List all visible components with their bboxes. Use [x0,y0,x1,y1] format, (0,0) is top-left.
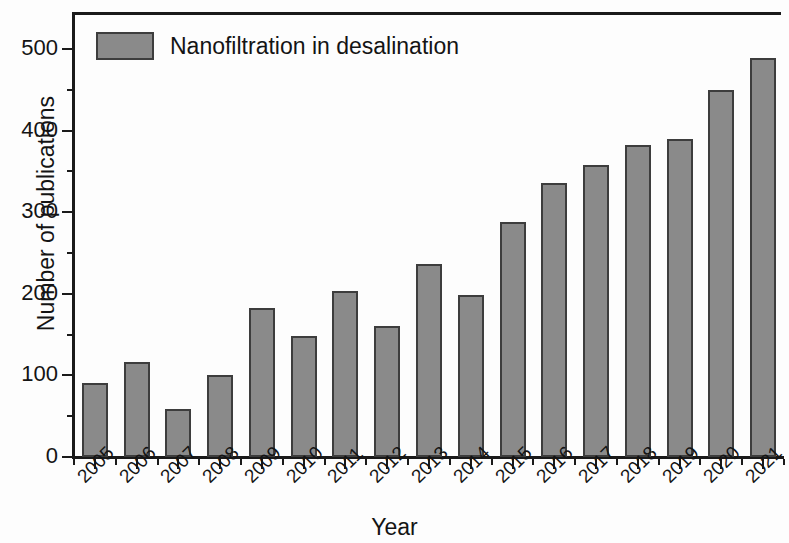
bar-2016 [541,183,567,457]
x-tick-minor [73,459,75,465]
y-tick-minor [67,334,73,336]
bar-2014 [458,295,484,457]
y-tick-major [62,456,73,458]
bar-2010 [291,336,317,457]
y-tick-label: 200 [6,280,58,306]
bar-2018 [625,145,651,457]
y-tick-major [62,211,73,213]
y-tick-label: 0 [6,443,58,469]
y-axis-tick-labels: 0100200300400500 [0,0,58,543]
legend-label-nanofiltration: Nanofiltration in desalination [170,33,459,60]
y-tick-minor [67,89,73,91]
y-tick-minor [67,252,73,254]
bar-2017 [583,165,609,457]
y-tick-label: 300 [6,198,58,224]
bar-2009 [249,308,275,457]
legend: Nanofiltration in desalination [96,32,459,60]
bar-2015 [500,222,526,457]
y-tick-major [62,48,73,50]
y-tick-label: 500 [6,35,58,61]
y-tick-label: 400 [6,117,58,143]
bar-2019 [667,139,693,457]
y-tick-major [62,130,73,132]
y-tick-minor [67,415,73,417]
y-tick-label: 100 [6,361,58,387]
bar-2011 [332,291,358,457]
x-axis-title: Year [0,514,789,541]
bar-chart-figure: Number of publications 0100200300400500 … [0,0,789,543]
legend-swatch-nanofiltration [96,32,154,60]
bar-2020 [708,90,734,457]
bar-2021 [750,58,776,457]
y-tick-major [62,293,73,295]
y-tick-minor [67,170,73,172]
y-tick-major [62,374,73,376]
bar-2012 [374,326,400,457]
bar-2013 [416,264,442,457]
